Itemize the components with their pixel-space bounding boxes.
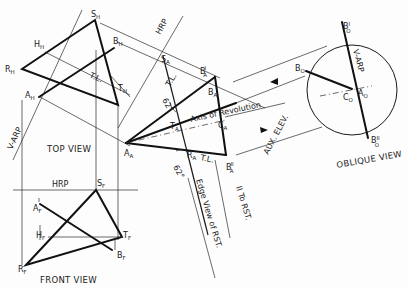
label-top-view: TOP VIEW xyxy=(46,144,92,154)
projector-aux-b xyxy=(117,42,265,108)
label-a-f: AF xyxy=(33,204,42,214)
label-h-h: HH xyxy=(34,40,44,50)
label-a-o: AO xyxy=(358,89,368,99)
label-edge-view: Edge View of RST. xyxy=(194,178,224,249)
label-r-f: RF xyxy=(18,265,27,275)
label-angle-upper: 62° xyxy=(160,97,175,114)
label-b2-o: BIIO xyxy=(371,135,380,148)
label-aux-elev: AUX. ELEV. xyxy=(262,113,290,156)
hrp-line-aux xyxy=(118,16,183,128)
label-axis-of-revolution: Axis of Revolution xyxy=(190,100,262,124)
label-a-a: AA xyxy=(124,149,133,159)
label-s-a: SA xyxy=(161,55,170,65)
projector-obl-b xyxy=(236,76,305,103)
label-r-h: RH xyxy=(5,65,15,75)
label-front-view: FRONT VIEW xyxy=(40,275,97,285)
label-b-o: BO xyxy=(295,64,306,74)
label-hrp-aux: HRP xyxy=(154,17,170,36)
label-a-h: AH xyxy=(25,91,35,101)
line-bo-co xyxy=(306,71,352,89)
label-tl-aux-lower: T.L. xyxy=(199,153,215,165)
label-r-a: RA xyxy=(187,151,197,161)
label-c-a: CA xyxy=(218,121,228,131)
varp-line-top xyxy=(13,10,82,160)
label-b-f: BF xyxy=(117,251,126,261)
triangle-rst-top xyxy=(22,20,118,105)
label-oblique-view: OBLIQUE VIEW xyxy=(336,149,403,170)
varp-line-oblique xyxy=(342,22,368,138)
descriptive-geometry-diagram: SH HH BH RH TH AH T.L. V-ARP TOP VIEW HR… xyxy=(0,0,408,288)
triangle-rst-front xyxy=(26,190,122,265)
label-varp-top: V-ARP xyxy=(6,126,24,151)
label-s-f: SF xyxy=(97,179,105,189)
label-h-f: HF xyxy=(36,231,45,241)
label-b1-a: BIA xyxy=(200,65,207,78)
line-aa-b2a xyxy=(126,143,226,155)
drawing-canvas: SH HH BH RH TH AH T.L. V-ARP TOP VIEW HR… xyxy=(0,0,408,288)
label-t-h: TH xyxy=(117,84,127,94)
label-b2-a: BIIA xyxy=(226,161,234,174)
label-parallel-to-rst: II To RST. xyxy=(234,185,253,221)
label-b-h: BH xyxy=(113,37,123,47)
arrow-left-icon xyxy=(270,78,278,85)
label-hrp-front: HRP xyxy=(52,180,69,189)
label-t-f: TF xyxy=(122,231,131,241)
label-c-o: CO xyxy=(343,93,354,103)
label-s-h: SH xyxy=(91,10,100,20)
projector-obl-b1 xyxy=(233,46,327,82)
label-tl-aux-upper: T.L. xyxy=(163,72,178,89)
label-angle-lower: 62° xyxy=(171,164,186,181)
arrow-left-icon-2 xyxy=(260,127,268,133)
